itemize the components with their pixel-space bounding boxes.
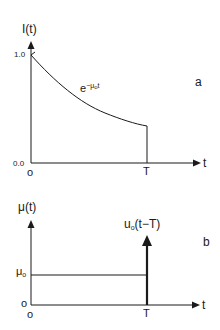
panel-a-tick-1 — [31, 52, 35, 55]
panel-b-tag: b — [203, 236, 210, 248]
panel-a-x-arrow-icon — [193, 160, 201, 167]
panel-a-x-tick-T: T — [143, 166, 150, 177]
panel-a-y-tick-bottom: 0.0 — [13, 160, 24, 168]
panel-b-axes — [31, 228, 193, 305]
panel-b-impulse-arrow-icon — [142, 235, 152, 246]
panel-b-y-tick-level: μo — [16, 266, 26, 277]
level-sub: o — [22, 271, 26, 278]
panel-a-tag: a — [195, 76, 202, 88]
curve-label-exp: −μot — [86, 82, 99, 89]
panel-a-y-arrow-icon — [28, 41, 35, 49]
panel-a-axes — [31, 48, 195, 163]
figure-canvas — [0, 0, 220, 330]
panel-b-x-tick-origin: o — [27, 309, 33, 320]
impulse-base: u — [124, 217, 131, 231]
curve-label-sub: o — [94, 84, 97, 90]
panel-a-y-tick-top: 1.0 — [14, 51, 25, 59]
impulse-sub: o — [131, 224, 135, 231]
impulse-arg: (t−T) — [135, 217, 161, 231]
panel-b-y-arrow-icon — [28, 220, 35, 228]
panel-b-x-arrow-icon — [192, 302, 200, 309]
panel-a-x-tick-origin: o — [27, 167, 33, 178]
panel-a-y-axis-label: I(t) — [22, 23, 37, 35]
panel-b-x-tick-T: T — [143, 308, 150, 319]
panel-b-y-axis-label: μ(t) — [18, 201, 36, 213]
panel-a-x-axis-label: t — [203, 157, 206, 169]
panel-a-curve-label: e−μot — [80, 83, 100, 94]
panel-b-x-axis-label: t — [202, 299, 205, 311]
panel-b-impulse-label: uo(t−T) — [124, 218, 160, 230]
